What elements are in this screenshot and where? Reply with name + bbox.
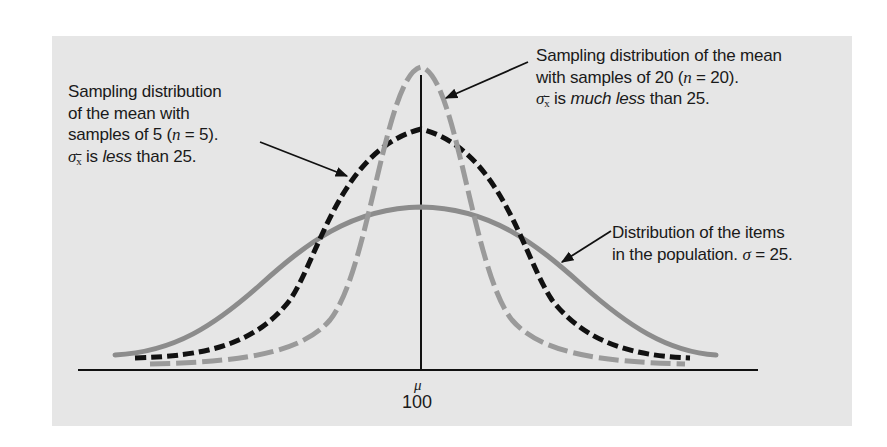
n20-line3-pre: is xyxy=(550,89,571,108)
n20-arrow xyxy=(446,62,528,98)
n5-line4-emph: less xyxy=(102,147,131,166)
mean-value-label: 100 xyxy=(402,392,432,413)
sigma-symbol: σ xyxy=(68,147,76,166)
population-annotation: Distribution of the items in the populat… xyxy=(612,222,792,265)
n20-line2-var: n xyxy=(683,68,691,87)
n5-line3-prefix: samples of 5 ( xyxy=(68,125,172,144)
population-line2: in the population. σ = 25. xyxy=(612,244,792,266)
n20-line2: with samples of 20 (n = 20). xyxy=(536,67,782,89)
n20-line3-post: than 25. xyxy=(645,89,709,108)
n20-line1: Sampling distribution of the mean xyxy=(536,45,782,67)
n20-line3-emph: much less xyxy=(570,89,645,108)
n20-line2-suffix: = 20). xyxy=(692,68,739,87)
n5-arrow xyxy=(260,142,347,176)
sigma-symbol: σ xyxy=(536,89,544,108)
n5-line2: of the mean with xyxy=(68,103,222,125)
n5-line4-post: than 25. xyxy=(132,147,196,166)
n5-line3-suffix: = 5). xyxy=(180,125,218,144)
population-line2-suffix: = 25. xyxy=(751,245,793,264)
n5-line3: samples of 5 (n = 5). xyxy=(68,124,222,146)
n5-annotation: Sampling distribution of the mean with s… xyxy=(68,81,222,169)
n20-line2-prefix: with samples of 20 ( xyxy=(536,68,683,87)
population-arrow xyxy=(562,231,611,262)
sigma-symbol: σ xyxy=(742,245,750,264)
population-line2-prefix: in the population. xyxy=(612,245,742,264)
x-bar-subscript: x xyxy=(544,97,549,109)
n20-line3: σx is much less than 25. xyxy=(536,88,782,112)
n20-annotation: Sampling distribution of the mean with s… xyxy=(536,45,782,112)
n20-curve xyxy=(150,67,685,364)
x-bar-subscript: x xyxy=(76,155,81,167)
n5-line1: Sampling distribution xyxy=(68,81,222,103)
n5-line4: σx is less than 25. xyxy=(68,146,222,170)
n5-line4-pre: is xyxy=(82,147,103,166)
population-line1: Distribution of the items xyxy=(612,222,792,244)
